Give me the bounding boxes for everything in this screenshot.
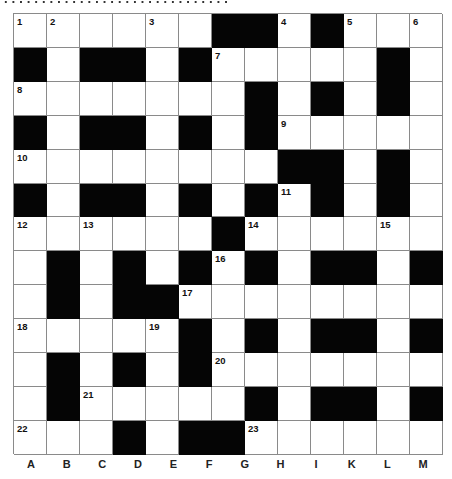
letter-cell[interactable] — [278, 285, 311, 319]
letter-cell[interactable] — [410, 285, 443, 319]
letter-cell[interactable]: 12 — [14, 217, 47, 251]
letter-cell[interactable] — [80, 353, 113, 387]
letter-cell[interactable]: 3 — [146, 14, 179, 48]
letter-cell[interactable] — [344, 285, 377, 319]
letter-cell[interactable] — [410, 48, 443, 82]
letter-cell[interactable] — [344, 353, 377, 387]
letter-cell[interactable] — [47, 421, 80, 455]
letter-cell[interactable] — [80, 319, 113, 353]
letter-cell[interactable] — [344, 184, 377, 218]
letter-cell[interactable]: 23 — [245, 421, 278, 455]
letter-cell[interactable]: 17 — [179, 285, 212, 319]
letter-cell[interactable] — [146, 150, 179, 184]
letter-cell[interactable] — [113, 319, 146, 353]
letter-cell[interactable] — [47, 116, 80, 150]
letter-cell[interactable] — [377, 14, 410, 48]
letter-cell[interactable]: 1 — [14, 14, 47, 48]
letter-cell[interactable] — [212, 82, 245, 116]
letter-cell[interactable] — [410, 217, 443, 251]
letter-cell[interactable] — [245, 150, 278, 184]
letter-cell[interactable] — [80, 421, 113, 455]
letter-cell[interactable] — [245, 353, 278, 387]
letter-cell[interactable] — [311, 421, 344, 455]
letter-cell[interactable] — [410, 82, 443, 116]
letter-cell[interactable] — [311, 353, 344, 387]
letter-cell[interactable] — [47, 217, 80, 251]
letter-cell[interactable] — [47, 48, 80, 82]
letter-cell[interactable] — [113, 82, 146, 116]
letter-cell[interactable]: 11 — [278, 184, 311, 218]
letter-cell[interactable] — [80, 14, 113, 48]
letter-cell[interactable]: 5 — [344, 14, 377, 48]
letter-cell[interactable] — [344, 421, 377, 455]
letter-cell[interactable] — [146, 251, 179, 285]
letter-cell[interactable] — [344, 116, 377, 150]
letter-cell[interactable] — [278, 319, 311, 353]
letter-cell[interactable] — [410, 421, 443, 455]
letter-cell[interactable] — [47, 184, 80, 218]
letter-cell[interactable] — [212, 116, 245, 150]
letter-cell[interactable]: 2 — [47, 14, 80, 48]
letter-cell[interactable] — [113, 14, 146, 48]
letter-cell[interactable] — [179, 14, 212, 48]
letter-cell[interactable] — [278, 353, 311, 387]
letter-cell[interactable]: 13 — [80, 217, 113, 251]
letter-cell[interactable] — [47, 319, 80, 353]
letter-cell[interactable] — [212, 387, 245, 421]
letter-cell[interactable] — [410, 150, 443, 184]
letter-cell[interactable]: 9 — [278, 116, 311, 150]
letter-cell[interactable] — [245, 285, 278, 319]
letter-cell[interactable] — [377, 319, 410, 353]
letter-cell[interactable] — [14, 353, 47, 387]
letter-cell[interactable] — [80, 285, 113, 319]
letter-cell[interactable]: 10 — [14, 150, 47, 184]
letter-cell[interactable]: 16 — [212, 251, 245, 285]
letter-cell[interactable] — [146, 184, 179, 218]
letter-cell[interactable] — [377, 387, 410, 421]
letter-cell[interactable] — [344, 48, 377, 82]
letter-cell[interactable]: 8 — [14, 82, 47, 116]
letter-cell[interactable] — [14, 251, 47, 285]
letter-cell[interactable] — [344, 82, 377, 116]
letter-cell[interactable] — [344, 150, 377, 184]
letter-cell[interactable] — [311, 48, 344, 82]
letter-cell[interactable]: 6 — [410, 14, 443, 48]
letter-cell[interactable] — [410, 184, 443, 218]
letter-cell[interactable] — [377, 353, 410, 387]
letter-cell[interactable]: 21 — [80, 387, 113, 421]
letter-cell[interactable] — [14, 285, 47, 319]
letter-cell[interactable] — [146, 82, 179, 116]
letter-cell[interactable] — [311, 285, 344, 319]
letter-cell[interactable] — [377, 421, 410, 455]
letter-cell[interactable] — [278, 421, 311, 455]
letter-cell[interactable] — [113, 150, 146, 184]
letter-cell[interactable]: 20 — [212, 353, 245, 387]
letter-cell[interactable] — [410, 353, 443, 387]
letter-cell[interactable] — [212, 285, 245, 319]
letter-cell[interactable] — [278, 217, 311, 251]
letter-cell[interactable]: 14 — [245, 217, 278, 251]
letter-cell[interactable] — [344, 217, 377, 251]
letter-cell[interactable] — [146, 48, 179, 82]
letter-cell[interactable] — [14, 387, 47, 421]
letter-cell[interactable] — [311, 116, 344, 150]
letter-cell[interactable] — [113, 387, 146, 421]
letter-cell[interactable]: 7 — [212, 48, 245, 82]
letter-cell[interactable] — [278, 82, 311, 116]
letter-cell[interactable] — [146, 116, 179, 150]
letter-cell[interactable] — [377, 285, 410, 319]
letter-cell[interactable]: 18 — [14, 319, 47, 353]
letter-cell[interactable] — [80, 82, 113, 116]
letter-cell[interactable] — [146, 353, 179, 387]
letter-cell[interactable] — [179, 82, 212, 116]
letter-cell[interactable]: 4 — [278, 14, 311, 48]
letter-cell[interactable] — [179, 217, 212, 251]
letter-cell[interactable] — [80, 251, 113, 285]
letter-cell[interactable] — [377, 116, 410, 150]
letter-cell[interactable] — [278, 387, 311, 421]
letter-cell[interactable] — [311, 217, 344, 251]
letter-cell[interactable]: 19 — [146, 319, 179, 353]
letter-cell[interactable] — [179, 150, 212, 184]
letter-cell[interactable] — [212, 319, 245, 353]
letter-cell[interactable] — [146, 421, 179, 455]
